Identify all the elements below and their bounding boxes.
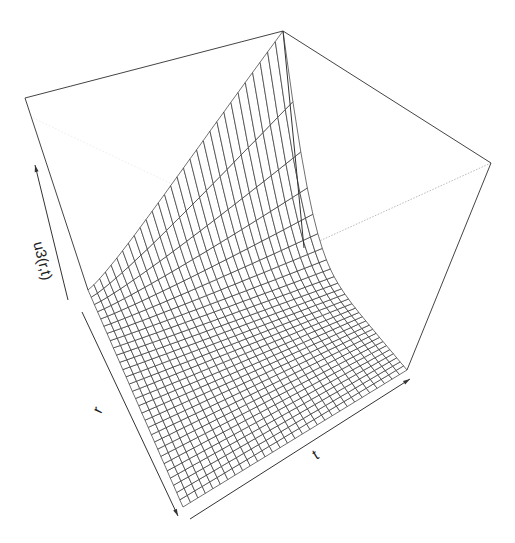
wireframe-surface bbox=[88, 31, 407, 507]
surface-plot: r t u3(r,t) bbox=[0, 0, 515, 543]
box-edge bbox=[407, 163, 491, 370]
arrowhead-icon bbox=[403, 379, 410, 384]
hidden-edge bbox=[304, 163, 491, 248]
arrowhead-icon bbox=[35, 165, 39, 172]
box-edge bbox=[25, 98, 88, 290]
z-axis-label: u3(r,t) bbox=[30, 240, 56, 282]
arrowhead-icon bbox=[173, 509, 178, 516]
t-axis-label: t bbox=[309, 446, 322, 463]
box-edge bbox=[283, 31, 491, 163]
r-axis-label: r bbox=[88, 404, 105, 416]
